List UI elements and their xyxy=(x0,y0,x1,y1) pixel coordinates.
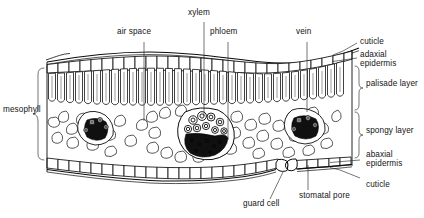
label-adaxial-epidermis: adaxial epidermis xyxy=(360,50,422,69)
label-abaxial-epidermis-line1: abaxial xyxy=(366,150,393,159)
spongy-brace xyxy=(355,112,363,158)
leaf-cross-section-diagram: air space xylem phloem vein cuticle adax… xyxy=(0,0,424,218)
label-cuticle-bottom: cuticle xyxy=(366,180,390,189)
label-xylem: xylem xyxy=(188,8,210,17)
label-abaxial-epidermis: abaxial epidermis xyxy=(366,150,424,169)
label-palisade-layer: palisade layer xyxy=(366,79,418,88)
label-vein: vein xyxy=(296,27,311,36)
label-air-space: air space xyxy=(117,27,151,36)
vein-right xyxy=(284,108,325,144)
label-abaxial-epidermis-line2: epidermis xyxy=(366,159,402,168)
label-cuticle-top: cuticle xyxy=(360,37,384,46)
label-spongy-layer: spongy layer xyxy=(366,126,414,135)
label-adaxial-epidermis-line1: adaxial xyxy=(360,50,387,59)
label-adaxial-epidermis-line2: epidermis xyxy=(360,59,396,68)
label-phloem: phloem xyxy=(210,27,237,36)
guard-cells-and-stoma xyxy=(276,159,298,171)
label-mesophyll: mesophyll xyxy=(3,105,41,114)
label-guard-cell: guard cell xyxy=(243,199,280,208)
leader-guard-cell xyxy=(270,172,283,199)
vein-central xyxy=(178,108,235,160)
palisade-brace xyxy=(355,66,363,110)
label-stomatal-pore: stomatal pore xyxy=(299,191,350,200)
leader-cuticle-bottom xyxy=(330,168,360,179)
vein-left xyxy=(78,111,114,145)
